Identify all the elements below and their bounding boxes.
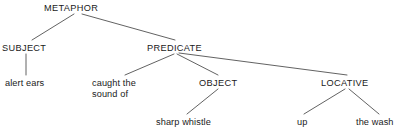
edge-metaphor-to-predicate	[82, 14, 175, 40]
node-metaphor: METAPHOR	[44, 3, 98, 14]
node-subject: SUBJECT	[2, 43, 46, 54]
edge-predicate-to-caught_the_sound_of	[125, 54, 174, 75]
node-object: OBJECT	[199, 78, 237, 89]
leaf-the-wash: the wash	[356, 117, 394, 128]
edge-predicate-to-locative	[179, 53, 347, 75]
tree-edges-layer	[0, 0, 404, 135]
leaf-sharp-whistle: sharp whistle	[156, 117, 211, 128]
edge-locative-to-up	[304, 89, 345, 114]
edge-predicate-to-object	[177, 54, 218, 75]
metaphor-tree-diagram: METAPHOR SUBJECT PREDICATE OBJECT LOCATI…	[0, 0, 404, 135]
leaf-caught-the-sound-of: caught the sound of	[92, 78, 136, 99]
leaf-alert-ears: alert ears	[5, 78, 44, 89]
edge-object-to-sharp_whistle	[187, 89, 218, 114]
leaf-up: up	[297, 117, 307, 128]
edge-locative-to-the_wash	[349, 89, 379, 114]
edge-metaphor-to-subject	[32, 14, 74, 40]
node-predicate: PREDICATE	[147, 43, 202, 54]
node-locative: LOCATIVE	[321, 78, 369, 89]
